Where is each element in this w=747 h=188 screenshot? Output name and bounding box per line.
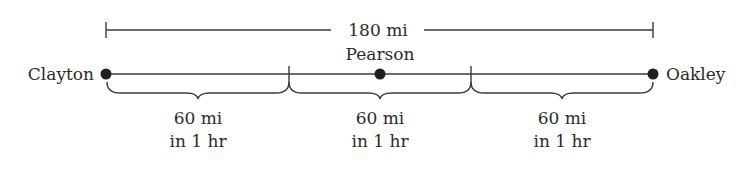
- route-line: [101, 66, 659, 82]
- segment-distance: 60 mi: [356, 108, 405, 128]
- brace-segment-2: [289, 82, 471, 99]
- total-distance-dimension: 180 mi: [106, 20, 653, 40]
- city-dot-end: [648, 69, 659, 80]
- segment-time: in 1 hr: [533, 131, 591, 151]
- segment-label-1: 60 mi in 1 hr: [169, 108, 227, 151]
- city-label-start: Clayton: [28, 64, 94, 84]
- city-dot-start: [101, 69, 112, 80]
- segment-braces: [107, 82, 653, 99]
- segment-label-2: 60 mi in 1 hr: [351, 108, 409, 151]
- brace-segment-3: [471, 82, 653, 99]
- segment-time: in 1 hr: [351, 131, 409, 151]
- total-distance-label: 180 mi: [348, 20, 408, 40]
- city-dot-middle: [375, 69, 386, 80]
- city-label-end: Oakley: [666, 64, 726, 84]
- segment-distance: 60 mi: [174, 108, 223, 128]
- city-label-middle: Pearson: [346, 44, 415, 64]
- segment-time: in 1 hr: [169, 131, 227, 151]
- brace-segment-1: [107, 82, 289, 99]
- segment-label-3: 60 mi in 1 hr: [533, 108, 591, 151]
- distance-diagram: 180 mi Clayton Pearson Oakley 60 mi in 1…: [0, 0, 747, 188]
- segment-distance: 60 mi: [538, 108, 587, 128]
